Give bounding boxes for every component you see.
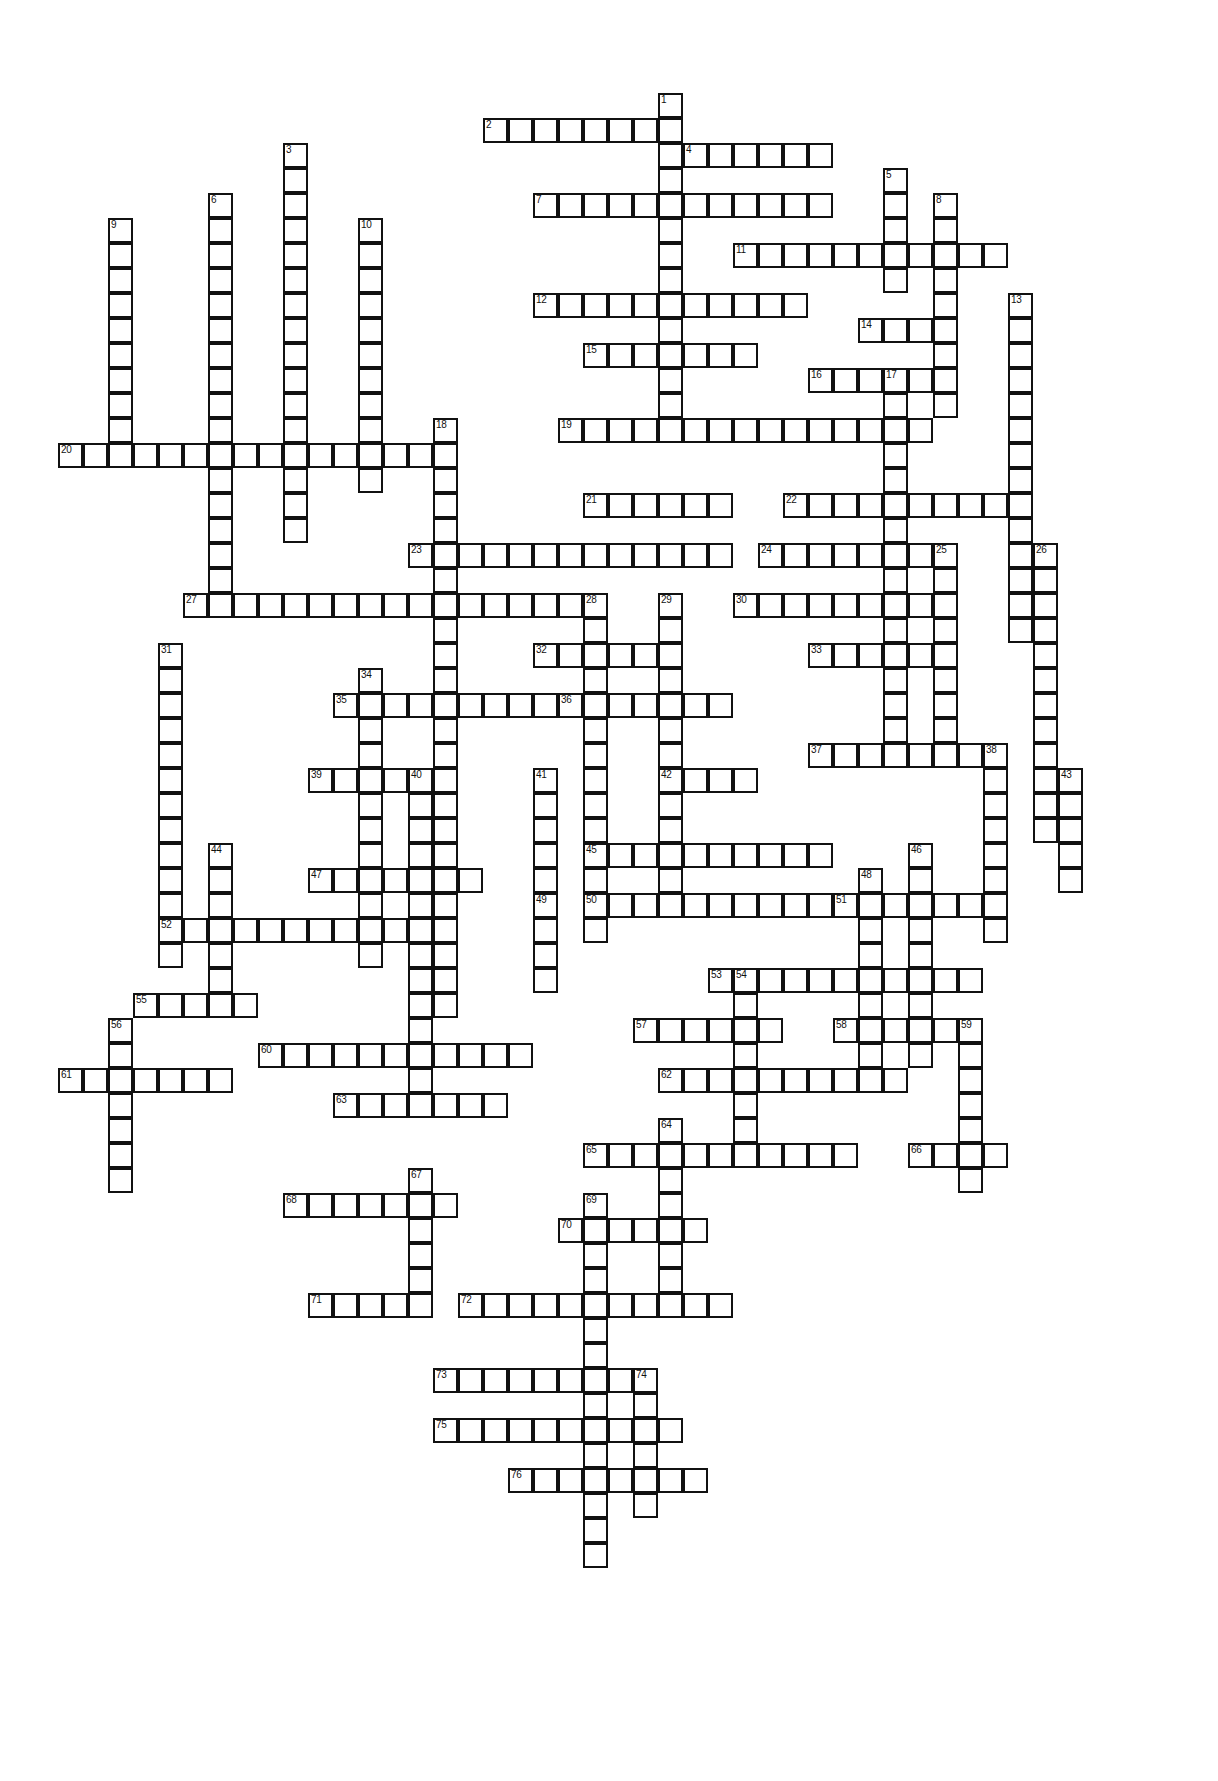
grid-cell[interactable]: [333, 918, 358, 943]
grid-cell[interactable]: [258, 918, 283, 943]
grid-cell[interactable]: [208, 318, 233, 343]
grid-cell[interactable]: [658, 868, 683, 893]
grid-cell[interactable]: [758, 418, 783, 443]
grid-cell[interactable]: [1008, 418, 1033, 443]
grid-cell[interactable]: [533, 768, 558, 793]
grid-cell[interactable]: [933, 743, 958, 768]
grid-cell[interactable]: [158, 993, 183, 1018]
grid-cell[interactable]: [708, 1293, 733, 1318]
grid-cell[interactable]: [458, 593, 483, 618]
grid-cell[interactable]: [708, 1143, 733, 1168]
grid-cell[interactable]: [883, 468, 908, 493]
grid-cell[interactable]: [908, 243, 933, 268]
grid-cell[interactable]: [283, 218, 308, 243]
grid-cell[interactable]: [608, 1218, 633, 1243]
grid-cell[interactable]: [108, 268, 133, 293]
grid-cell[interactable]: [433, 568, 458, 593]
grid-cell[interactable]: [433, 843, 458, 868]
grid-cell[interactable]: [958, 1168, 983, 1193]
grid-cell[interactable]: [358, 1193, 383, 1218]
grid-cell[interactable]: [958, 1143, 983, 1168]
grid-cell[interactable]: [633, 1218, 658, 1243]
grid-cell[interactable]: [633, 293, 658, 318]
grid-cell[interactable]: [633, 1018, 658, 1043]
grid-cell[interactable]: [533, 943, 558, 968]
grid-cell[interactable]: [958, 968, 983, 993]
grid-cell[interactable]: [1008, 593, 1033, 618]
grid-cell[interactable]: [908, 1143, 933, 1168]
grid-cell[interactable]: [833, 643, 858, 668]
grid-cell[interactable]: [558, 418, 583, 443]
grid-cell[interactable]: [158, 718, 183, 743]
grid-cell[interactable]: [108, 243, 133, 268]
grid-cell[interactable]: [533, 818, 558, 843]
grid-cell[interactable]: [658, 218, 683, 243]
grid-cell[interactable]: [483, 1093, 508, 1118]
grid-cell[interactable]: [908, 643, 933, 668]
grid-cell[interactable]: [883, 593, 908, 618]
grid-cell[interactable]: [583, 893, 608, 918]
grid-cell[interactable]: [658, 768, 683, 793]
grid-cell[interactable]: [208, 368, 233, 393]
grid-cell[interactable]: [858, 318, 883, 343]
grid-cell[interactable]: [883, 193, 908, 218]
grid-cell[interactable]: [808, 243, 833, 268]
grid-cell[interactable]: [783, 968, 808, 993]
grid-cell[interactable]: [658, 318, 683, 343]
grid-cell[interactable]: [433, 468, 458, 493]
grid-cell[interactable]: [883, 368, 908, 393]
grid-cell[interactable]: [958, 743, 983, 768]
grid-cell[interactable]: [958, 1018, 983, 1043]
grid-cell[interactable]: [408, 793, 433, 818]
grid-cell[interactable]: [308, 868, 333, 893]
grid-cell[interactable]: [158, 743, 183, 768]
grid-cell[interactable]: [208, 493, 233, 518]
grid-cell[interactable]: [658, 1068, 683, 1093]
grid-cell[interactable]: [733, 1068, 758, 1093]
grid-cell[interactable]: [883, 568, 908, 593]
grid-cell[interactable]: [333, 1293, 358, 1318]
grid-cell[interactable]: [408, 843, 433, 868]
grid-cell[interactable]: [433, 1368, 458, 1393]
grid-cell[interactable]: [583, 718, 608, 743]
grid-cell[interactable]: [583, 1418, 608, 1443]
grid-cell[interactable]: [808, 143, 833, 168]
grid-cell[interactable]: [983, 1143, 1008, 1168]
grid-cell[interactable]: [758, 843, 783, 868]
grid-cell[interactable]: [358, 943, 383, 968]
grid-cell[interactable]: [508, 118, 533, 143]
grid-cell[interactable]: [208, 343, 233, 368]
grid-cell[interactable]: [683, 893, 708, 918]
grid-cell[interactable]: [108, 1118, 133, 1143]
grid-cell[interactable]: [633, 843, 658, 868]
grid-cell[interactable]: [858, 918, 883, 943]
grid-cell[interactable]: [333, 1043, 358, 1068]
grid-cell[interactable]: [358, 868, 383, 893]
grid-cell[interactable]: [783, 1143, 808, 1168]
grid-cell[interactable]: [283, 518, 308, 543]
grid-cell[interactable]: [658, 618, 683, 643]
grid-cell[interactable]: [483, 543, 508, 568]
grid-cell[interactable]: [808, 543, 833, 568]
grid-cell[interactable]: [383, 1043, 408, 1068]
grid-cell[interactable]: [158, 843, 183, 868]
grid-cell[interactable]: [633, 1368, 658, 1393]
grid-cell[interactable]: [858, 418, 883, 443]
grid-cell[interactable]: [433, 693, 458, 718]
grid-cell[interactable]: [733, 968, 758, 993]
grid-cell[interactable]: [233, 993, 258, 1018]
grid-cell[interactable]: [533, 893, 558, 918]
grid-cell[interactable]: [108, 443, 133, 468]
grid-cell[interactable]: [358, 443, 383, 468]
grid-cell[interactable]: [683, 1143, 708, 1168]
grid-cell[interactable]: [783, 1068, 808, 1093]
grid-cell[interactable]: [583, 118, 608, 143]
grid-cell[interactable]: [633, 1293, 658, 1318]
grid-cell[interactable]: [1033, 818, 1058, 843]
grid-cell[interactable]: [783, 493, 808, 518]
grid-cell[interactable]: [908, 743, 933, 768]
grid-cell[interactable]: [183, 593, 208, 618]
grid-cell[interactable]: [633, 1443, 658, 1468]
grid-cell[interactable]: [683, 1468, 708, 1493]
grid-cell[interactable]: [883, 243, 908, 268]
